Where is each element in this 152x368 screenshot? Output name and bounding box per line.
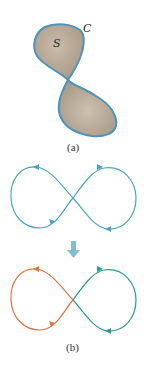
arrows-top bbox=[33, 164, 111, 232]
figure-eight-left-loop-orange bbox=[11, 269, 73, 330]
arrow-icon bbox=[33, 266, 39, 272]
down-arrow-icon bbox=[67, 241, 80, 258]
arrow-icon bbox=[105, 328, 111, 334]
surface-lower-lobe bbox=[59, 80, 117, 136]
figure-eight-bottom bbox=[11, 269, 136, 331]
surface-label-s: S bbox=[53, 37, 61, 50]
curve-label-c: C bbox=[83, 22, 92, 35]
surface-upper-lobe bbox=[34, 24, 84, 80]
arrows-bottom bbox=[33, 266, 111, 334]
caption-b: (b) bbox=[66, 341, 79, 354]
arrow-icon bbox=[105, 226, 111, 232]
figure-eight-top-left-loop bbox=[11, 167, 73, 228]
figure-eight-right-loop-teal bbox=[73, 270, 136, 331]
caption-a: (a) bbox=[67, 141, 80, 154]
arrow-icon bbox=[33, 164, 39, 170]
figure-eight-top bbox=[11, 167, 136, 229]
surface-figure-a: S C (a) bbox=[34, 22, 116, 154]
figure-eight-top-right-loop bbox=[73, 168, 136, 229]
diagram-canvas: S C (a) (b) bbox=[0, 0, 152, 368]
